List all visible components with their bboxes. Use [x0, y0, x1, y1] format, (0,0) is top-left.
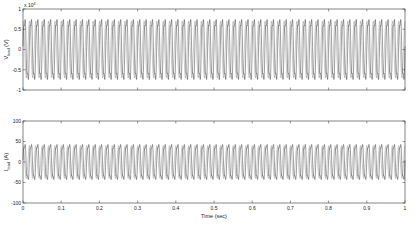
y-tick-label: 0.5 — [14, 26, 21, 32]
x-tick-label: 1 — [404, 205, 407, 211]
x-tick-label: 0.6 — [249, 205, 256, 211]
figure: -1-0.500.51x 104Vload (V) 00.10.20.30.40… — [0, 0, 418, 226]
x-tick-label: 0.7 — [287, 205, 294, 211]
x-tick-label: 0.9 — [363, 205, 370, 211]
series-line-vload — [23, 20, 405, 80]
y-tick-label: -1 — [17, 87, 22, 93]
y-tick-label: -100 — [11, 200, 21, 206]
y-tick-label: 0 — [18, 159, 21, 165]
x-tick-label: 0.8 — [325, 205, 332, 211]
x-tick-label: 0.2 — [96, 205, 103, 211]
y-axis-label: Iload (A) — [3, 153, 11, 171]
x-axis-label: Time (sec) — [201, 213, 227, 219]
y-tick-label: -0.5 — [12, 67, 21, 73]
x-tick-label: 0.1 — [58, 205, 65, 211]
y-tick-label: 100 — [13, 118, 22, 124]
y-axis-label: Vload (V) — [3, 39, 11, 59]
x-tick-label: 0.4 — [172, 205, 179, 211]
current-axes: 00.10.20.30.40.50.60.70.80.91-100-500501… — [3, 118, 407, 219]
y-tick-label: 1 — [18, 6, 21, 12]
y-exponent-label: x 104 — [24, 2, 35, 8]
x-tick-label: 0 — [22, 205, 25, 211]
y-tick-label: -50 — [14, 179, 21, 185]
y-tick-label: 0 — [18, 46, 21, 52]
voltage-axes: -1-0.500.51x 104Vload (V) — [3, 2, 405, 93]
y-tick-label: 50 — [15, 138, 21, 144]
x-tick-label: 0.5 — [211, 205, 218, 211]
series-line-iload — [23, 144, 405, 179]
x-tick-label: 0.3 — [134, 205, 141, 211]
